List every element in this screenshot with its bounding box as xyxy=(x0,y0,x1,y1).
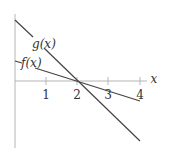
f-line-segment-2 xyxy=(35,68,140,101)
g-line-segment-1 xyxy=(15,20,33,37)
chart: 1 2 3 4 x g(x) f(x) xyxy=(0,0,173,160)
g-label: g(x) xyxy=(32,37,56,51)
x-tick-label-1: 1 xyxy=(42,88,50,102)
f-label: f(x) xyxy=(20,56,42,70)
x-tick-label-2: 2 xyxy=(73,88,81,102)
x-axis-label: x xyxy=(151,72,158,86)
g-line-segment-2 xyxy=(44,48,140,141)
